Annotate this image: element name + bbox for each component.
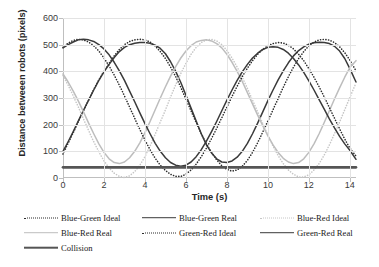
x-tick-label: 6 (183, 180, 188, 190)
y-axis-tick-labels: 0100200300400500600 (32, 0, 61, 200)
legend-row: Collision (24, 240, 374, 255)
x-tick-label: 4 (142, 180, 147, 190)
y-tick-label: 400 (43, 66, 58, 76)
y-tick-label: 500 (43, 40, 58, 50)
gridline-horizontal (63, 98, 356, 99)
x-tick-label: 10 (263, 180, 273, 190)
y-tick-mark (59, 151, 63, 152)
legend-swatch-icon (142, 212, 176, 223)
legend-swatch-icon (142, 227, 176, 238)
legend-label: Green-Red Ideal (179, 228, 236, 238)
plot-area (63, 18, 356, 178)
x-tick-label: 14 (345, 180, 355, 190)
gridline-horizontal (63, 18, 356, 19)
legend-item[interactable]: Blue-Green Ideal (24, 210, 142, 225)
y-tick-mark (59, 71, 63, 72)
legend-item[interactable]: Blue-Green Real (142, 210, 260, 225)
gridline-vertical (145, 18, 146, 178)
legend-item[interactable]: Green-Red Ideal (142, 225, 260, 240)
gridline-horizontal (63, 71, 356, 72)
y-tick-label: 200 (43, 120, 58, 130)
legend-item[interactable]: Blue-Red Real (24, 225, 142, 240)
y-tick-label: 100 (43, 146, 58, 156)
legend-item[interactable]: Green-Red Real (260, 225, 374, 240)
x-tick-label: 0 (60, 180, 65, 190)
gridline-horizontal (63, 151, 356, 152)
legend-label: Collision (61, 243, 93, 253)
y-axis-label: Distance betweeen robots (pixels) (17, 0, 27, 173)
legend-swatch-icon (24, 227, 58, 238)
legend-label: Blue-Green Ideal (61, 213, 120, 223)
y-tick-label: 600 (43, 13, 58, 23)
legend-label: Blue-Red Real (61, 228, 112, 238)
x-tick-label: 2 (101, 180, 106, 190)
legend-swatch-icon (260, 212, 294, 223)
plot-container: Distance betweeen robots (pixels) 010020… (0, 0, 379, 200)
gridline-vertical (104, 18, 105, 178)
legend-item[interactable]: Blue-Red Ideal (260, 210, 374, 225)
x-tick-label: 12 (304, 180, 314, 190)
y-tick-label: 300 (43, 93, 58, 103)
legend-row: Blue-Green IdealBlue-Green RealBlue-Red … (24, 210, 374, 225)
chart-root: Distance betweeen robots (pixels) 010020… (0, 0, 379, 267)
legend-swatch-icon (260, 227, 294, 238)
gridline-vertical (268, 18, 269, 178)
series-line (63, 42, 356, 162)
y-tick-mark (59, 45, 63, 46)
series-line (63, 40, 356, 164)
gridline-vertical (350, 18, 351, 178)
legend-label: Green-Red Real (297, 228, 353, 238)
legend-label: Blue-Red Ideal (297, 213, 349, 223)
chart-legend: Blue-Green IdealBlue-Green RealBlue-Red … (24, 210, 374, 260)
gridline-vertical (227, 18, 228, 178)
x-tick-label: 8 (224, 180, 229, 190)
gridline-vertical (186, 18, 187, 178)
y-tick-label: 0 (53, 173, 58, 183)
y-tick-mark (59, 98, 63, 99)
legend-swatch-icon (24, 242, 58, 253)
gridline-vertical (309, 18, 310, 178)
y-tick-mark (59, 125, 63, 126)
gridline-horizontal (63, 45, 356, 46)
legend-item[interactable]: Collision (24, 240, 142, 255)
legend-label: Blue-Green Real (179, 213, 237, 223)
gridline-horizontal (63, 125, 356, 126)
y-tick-mark (59, 18, 63, 19)
legend-row: Blue-Red RealGreen-Red IdealGreen-Red Re… (24, 225, 374, 240)
x-axis-label: Time (s) (63, 192, 356, 202)
legend-swatch-icon (24, 212, 58, 223)
